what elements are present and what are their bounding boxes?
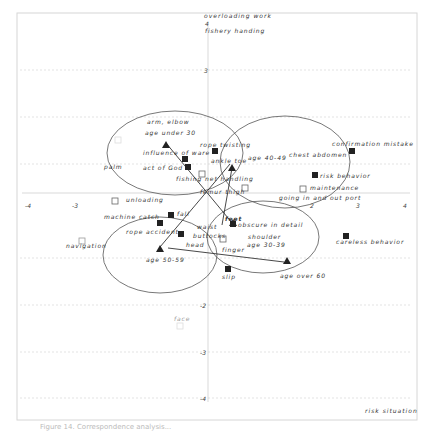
open-square-icon — [115, 137, 121, 143]
open-square-icon — [112, 198, 118, 204]
svg-text:-3: -3 — [72, 202, 78, 209]
open-square-icon — [177, 323, 183, 329]
square-icon — [225, 266, 231, 272]
x-axis-end-label: risk situation — [365, 407, 418, 414]
svg-text:obscure in detail: obscure in detail — [238, 221, 303, 228]
svg-text:fall: fall — [177, 210, 190, 217]
svg-text:rope accident: rope accident — [126, 228, 179, 236]
svg-text:face: face — [174, 315, 190, 322]
square-icon — [182, 156, 188, 162]
svg-text:going in and out port: going in and out port — [279, 194, 361, 202]
square-icon — [178, 231, 184, 237]
svg-text:influence of ware: influence of ware — [143, 149, 210, 156]
svg-text:maintenance: maintenance — [310, 184, 359, 191]
square-icon — [312, 172, 318, 178]
square-icon — [349, 148, 355, 154]
svg-text:age 40-49: age 40-49 — [248, 154, 287, 162]
svg-text:act of God: act of God — [143, 164, 183, 171]
svg-text:2: 2 — [310, 202, 314, 209]
svg-text:fishery handing: fishery handing — [205, 27, 265, 35]
svg-text:rope twisting: rope twisting — [200, 141, 251, 149]
svg-text:-3: -3 — [200, 349, 206, 356]
svg-text:slip: slip — [222, 273, 236, 281]
y-axis-top-label: overloading work — [204, 12, 272, 20]
svg-text:buttocks: buttocks — [193, 232, 226, 239]
svg-text:fishing net handling: fishing net handling — [176, 175, 254, 183]
svg-text:navigation: navigation — [66, 242, 107, 250]
svg-text:age under 30: age under 30 — [145, 129, 196, 137]
square-icon — [212, 148, 218, 154]
svg-text:risk behavior: risk behavior — [320, 172, 371, 179]
svg-text:ankle toe: ankle toe — [211, 157, 247, 164]
svg-text:machine catch: machine catch — [104, 213, 160, 220]
svg-text:careless behavior: careless behavior — [336, 238, 404, 245]
correspondence-analysis-chart: -4 -3 2 3 4 4 3 -2 -3 -4 overloading wor… — [0, 0, 433, 431]
svg-text:femur thigh: femur thigh — [200, 188, 245, 196]
svg-text:3: 3 — [356, 202, 360, 209]
svg-text:4: 4 — [205, 20, 209, 27]
square-icon — [185, 164, 191, 170]
svg-text:-4: -4 — [200, 395, 206, 402]
svg-text:3: 3 — [204, 67, 208, 74]
svg-text:-4: -4 — [25, 202, 31, 209]
svg-text:palm: palm — [103, 163, 123, 171]
svg-text:age over 60: age over 60 — [280, 272, 326, 280]
square-icon — [157, 220, 163, 226]
point-labels: fishery handing arm, elbow age under 30 … — [66, 27, 414, 322]
svg-text:arm, elbow: arm, elbow — [147, 118, 190, 125]
svg-text:confirmation mistake: confirmation mistake — [332, 140, 414, 147]
figure-caption: Figure 14. Correspondence analysis... — [40, 423, 171, 431]
svg-text:shoulder: shoulder — [248, 233, 281, 240]
triangle-icon — [156, 245, 164, 252]
svg-text:age 50-59: age 50-59 — [146, 256, 185, 264]
triangle-icon — [162, 141, 170, 148]
svg-text:age 30-39: age 30-39 — [247, 241, 286, 249]
svg-text:finger: finger — [222, 246, 245, 254]
open-square-icon — [300, 186, 306, 192]
svg-text:waist: waist — [197, 223, 217, 230]
axes — [22, 22, 410, 402]
svg-text:unloading: unloading — [126, 196, 164, 204]
svg-text:head: head — [186, 241, 205, 248]
square-icon — [168, 212, 174, 218]
svg-text:chest abdomen: chest abdomen — [289, 151, 347, 158]
svg-text:-2: -2 — [200, 302, 206, 309]
svg-text:4: 4 — [403, 202, 407, 209]
